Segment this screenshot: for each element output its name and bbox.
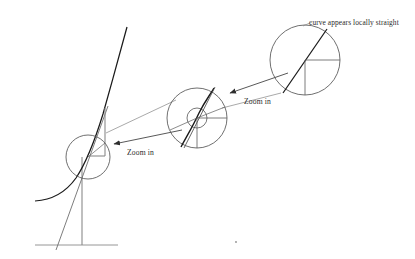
stray-dot bbox=[235, 241, 237, 243]
arrow-left-icon-2 bbox=[230, 73, 288, 93]
local-linearity-figure: Zoom in Zoom in curve appears locally st… bbox=[0, 0, 415, 259]
zoom-in-label-1: Zoom in bbox=[127, 149, 154, 157]
zoom-cone-upper-1 bbox=[106, 100, 176, 133]
locally-straight-caption: curve appears locally straight bbox=[309, 19, 399, 26]
panel-original-curve bbox=[35, 27, 127, 250]
curve-path bbox=[35, 27, 127, 201]
zoom-connector-1 bbox=[106, 100, 182, 144]
zoom-in-label-2: Zoom in bbox=[244, 98, 271, 106]
arrow-left-icon bbox=[114, 130, 182, 144]
panel-second-zoom bbox=[270, 25, 340, 95]
figure-canvas bbox=[0, 0, 415, 259]
tangent-line-zoom-2 bbox=[184, 87, 215, 148]
panel-first-zoom bbox=[167, 87, 227, 148]
